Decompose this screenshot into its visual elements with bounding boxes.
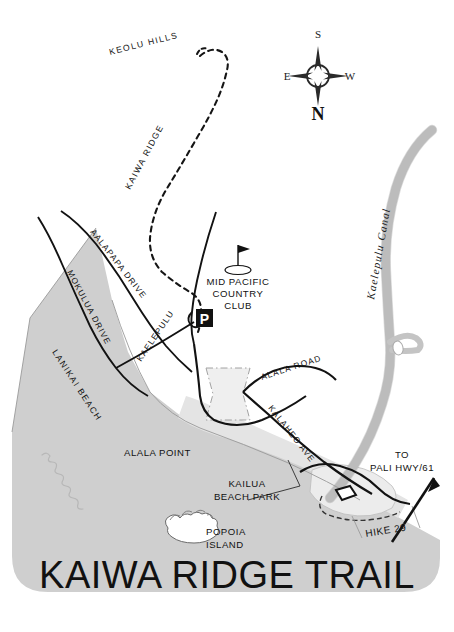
map-figure: S E W N MID PACIFIC COUNTRY CLUB P KEOLU…: [0, 0, 454, 632]
compass-rose: [288, 46, 348, 106]
place-label-popoia-island-line1: POPOIA: [206, 526, 246, 537]
pali-hwy-note-line2: PALI HWY/61: [370, 462, 434, 473]
keolu-hills-label: KEOLU HILLS: [108, 30, 179, 57]
pali-hwy-note-line1: TO: [395, 449, 409, 460]
country-club-label-line1: MID PACIFIC: [207, 276, 270, 287]
parking-letter: P: [200, 311, 209, 327]
golf-flag-icon: [225, 245, 251, 275]
kaelepulu-canal-outline: [330, 130, 432, 498]
compass-label-right: W: [345, 70, 356, 82]
kaiwa-ridge-label: KAIWA RIDGE: [123, 123, 166, 191]
place-label-kailua-beach-park-line2: BEACH PARK: [214, 491, 280, 502]
compass-label-top: S: [315, 28, 321, 40]
country-club-label-line2: COUNTRY: [213, 288, 264, 299]
map-title: KAIWA RIDGE TRAIL: [39, 554, 415, 596]
parking-icon: P: [196, 309, 213, 327]
compass-label-bottom: N: [312, 104, 325, 124]
place-label-popoia-island-line2: ISLAND: [206, 539, 244, 550]
compass-label-left: E: [284, 70, 291, 82]
golf-course-area: [206, 368, 250, 420]
place-label-kailua-beach-park-line1: KAILUA: [228, 478, 265, 489]
country-club-label-line3: CLUB: [224, 300, 252, 311]
road-label-kaelepulu: KAELEPULU: [134, 308, 175, 363]
map-canvas: S E W N MID PACIFIC COUNTRY CLUB P KEOLU…: [0, 0, 454, 632]
kaelepulu-canal: [330, 130, 432, 498]
place-label-alala-point: ALALA POINT: [124, 447, 191, 458]
